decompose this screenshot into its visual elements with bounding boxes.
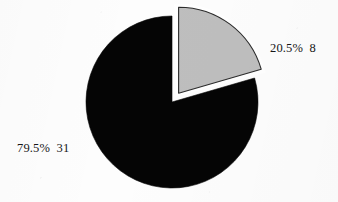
pie-chart-canvas: [0, 0, 338, 202]
pie-label-minor: 20.5% 8: [270, 42, 316, 55]
pie-label-major: 79.5% 31: [17, 142, 69, 155]
pie-chart-figure: 20.5% 8 79.5% 31: [0, 0, 338, 202]
